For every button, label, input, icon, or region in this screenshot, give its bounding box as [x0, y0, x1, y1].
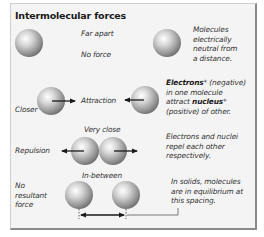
- description-line: (positive) of other.: [166, 107, 246, 117]
- molecule-far-right: [153, 29, 181, 57]
- description-repulsion: Electrons and nuclei repel each other re…: [166, 132, 238, 161]
- description-line: this spacing.: [171, 196, 243, 206]
- description-line: In solids, molecules: [171, 177, 243, 187]
- electrons-term: Electrons: [166, 78, 204, 87]
- label-attraction: Attraction: [81, 96, 116, 106]
- description-line: attract nucleus*: [166, 97, 246, 107]
- label-no-resultant-force: No resultant force: [15, 181, 47, 210]
- description-line: Electrons and nuclei: [166, 132, 238, 142]
- label-line: force: [15, 200, 47, 210]
- description-line: a distance.: [193, 54, 237, 64]
- label-very-close: Very close: [84, 125, 120, 135]
- label-no-force: No force: [81, 50, 111, 60]
- description-line: Molecules: [193, 25, 237, 35]
- description-line: neutral from: [193, 44, 237, 54]
- label-closer: Closer: [15, 105, 37, 115]
- description-neutral: Molecules electrically neutral from a di…: [193, 25, 237, 63]
- label-in-between: In-between: [82, 171, 122, 181]
- molecule-far-left: [15, 29, 43, 57]
- description-text: * (negative): [204, 78, 246, 87]
- description-text: attract: [166, 97, 192, 106]
- description-attraction: Electrons* (negative) in one molecule at…: [166, 78, 246, 116]
- label-line: resultant: [15, 191, 47, 201]
- description-line: respectively.: [166, 151, 238, 161]
- label-line: No: [15, 181, 47, 191]
- description-line: repel each other: [166, 142, 238, 152]
- callout-line: [127, 208, 178, 215]
- description-line: electrically: [193, 35, 237, 45]
- nucleus-term: nucleus: [192, 97, 223, 106]
- description-line: Electrons* (negative): [166, 78, 246, 88]
- diagram-title: Intermolecular forces: [15, 10, 126, 21]
- description-line: are in equilibrium at: [171, 187, 243, 197]
- description-text: *: [223, 97, 227, 106]
- label-repulsion: Repulsion: [15, 146, 50, 156]
- description-line: in one molecule: [166, 88, 246, 98]
- molecule-in-between-right: [112, 181, 140, 209]
- label-far-apart: Far apart: [81, 29, 114, 39]
- molecule-in-between-left: [65, 181, 93, 209]
- description-equilibrium: In solids, molecules are in equilibrium …: [171, 177, 243, 206]
